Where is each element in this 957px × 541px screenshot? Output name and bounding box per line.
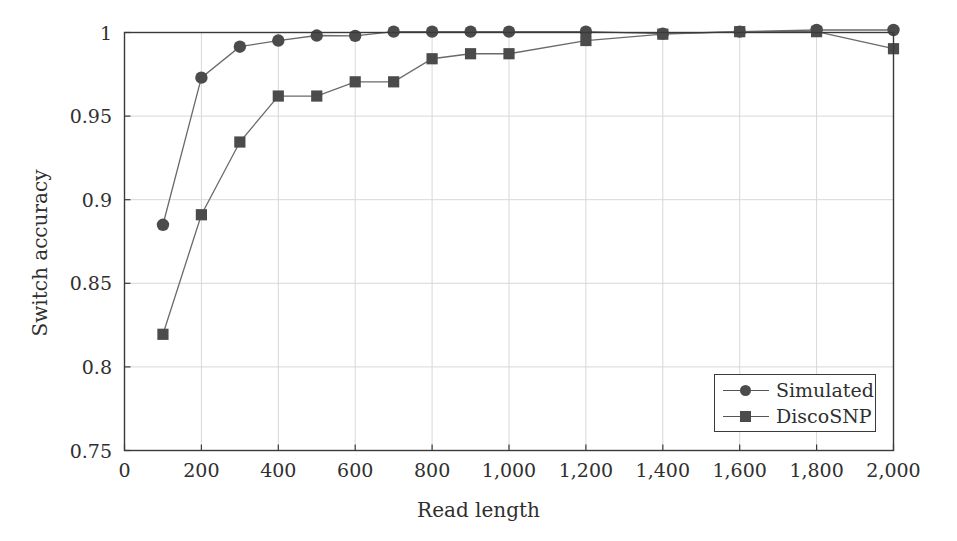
y-tick-label: 0.8 <box>20 356 112 378</box>
x-tick-label: 1,800 <box>789 459 843 481</box>
chart-legend: Simulated DiscoSNP <box>714 374 876 432</box>
x-tick-label: 1,000 <box>482 459 536 481</box>
y-tick-label: 0.75 <box>20 440 112 462</box>
x-tick-label: 400 <box>260 459 296 481</box>
legend-marker-square-icon <box>723 407 769 425</box>
x-tick-label: 0 <box>118 459 130 481</box>
y-axis-title: Switch accuracy <box>28 153 52 353</box>
data-series-layer <box>157 24 900 340</box>
x-tick-label: 1,200 <box>559 459 613 481</box>
legend-item-discosnp: DiscoSNP <box>723 403 872 429</box>
chart-figure: 0.750.80.850.90.951 02004006008001,0001,… <box>0 0 957 541</box>
x-tick-label: 2,000 <box>866 459 920 481</box>
y-tick-label: 0.95 <box>20 105 112 127</box>
x-tick-label: 800 <box>414 459 450 481</box>
x-tick-label: 600 <box>337 459 373 481</box>
legend-label-discosnp: DiscoSNP <box>776 405 872 427</box>
legend-item-simulated: Simulated <box>723 377 874 403</box>
x-axis-title: Read length <box>0 498 957 522</box>
legend-marker-circle-icon <box>723 381 769 399</box>
legend-label-simulated: Simulated <box>776 379 874 401</box>
y-tick-label: 1 <box>20 22 112 44</box>
x-tick-label: 200 <box>183 459 219 481</box>
x-tick-label: 1,400 <box>636 459 690 481</box>
x-tick-label: 1,600 <box>712 459 766 481</box>
